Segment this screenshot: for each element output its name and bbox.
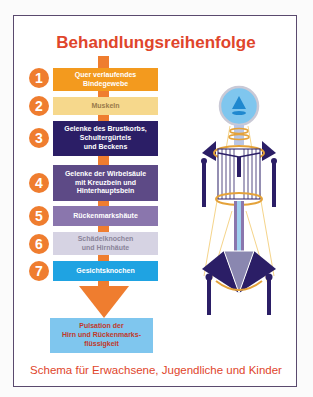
step-4: Gelenke der Wirbelsäule mit Kreuzbein un… — [53, 165, 158, 201]
step-2: Muskeln — [53, 97, 158, 115]
pelvis-icon — [202, 251, 276, 315]
step-number-2: 2 — [29, 96, 49, 116]
step-3: Gelenke des Brustkorbs, Schultergürtels … — [53, 121, 158, 156]
footer-caption: Schema für Erwachsene, Jugendliche und K… — [14, 364, 298, 376]
step-number-7: 7 — [29, 261, 49, 281]
step-number-1: 1 — [29, 68, 49, 88]
step-6: Schädelknochen und Hirnhäute — [53, 232, 158, 255]
step-5: Rückenmarkshäute — [53, 206, 158, 226]
skeleton-figure — [194, 61, 284, 321]
step-1: Quer verlaufendes Bindegewebe — [53, 68, 158, 91]
step-7: Gesichtsknochen — [53, 261, 158, 281]
result-box: Pulsation der Hirn und Rückenmarks- flüs… — [50, 318, 153, 353]
step-number-5: 5 — [29, 206, 49, 226]
ribcage-icon — [214, 146, 264, 205]
skull-circle-icon — [220, 87, 258, 125]
diagram-title: Behandlungsreihenfolge — [14, 33, 298, 53]
diagram-frame: Behandlungsreihenfolge 1 Quer verlaufend… — [13, 15, 297, 387]
step-number-3: 3 — [29, 128, 49, 148]
step-number-4: 4 — [29, 173, 49, 193]
down-arrow-icon — [79, 286, 129, 318]
step-number-6: 6 — [29, 234, 49, 254]
